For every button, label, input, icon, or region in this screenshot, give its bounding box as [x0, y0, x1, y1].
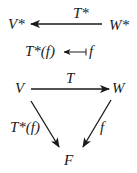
node-W: W [112, 81, 125, 96]
node-V: V [15, 81, 24, 96]
label-f: f [100, 120, 104, 135]
node-F: F [64, 153, 73, 168]
node-V-star: V* [8, 17, 25, 32]
label-T: T [66, 71, 74, 86]
mapsto-source-f: f [89, 44, 93, 59]
label-T-star: T* [73, 6, 89, 21]
mapsto-target-T-star-f: T*(f) [25, 44, 55, 59]
node-W-star: W* [109, 18, 129, 33]
arrow-f [83, 100, 111, 147]
label-T-star-f: T*(f) [10, 120, 40, 135]
